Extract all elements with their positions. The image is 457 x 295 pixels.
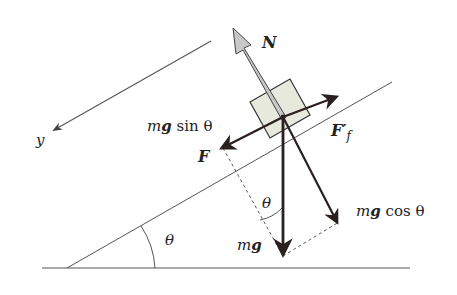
label-friction-force: F′f: [330, 121, 354, 143]
incline-angle-arc: [141, 226, 155, 268]
dashed-perp-lower: [283, 222, 339, 256]
label-applied-force: F: [197, 147, 211, 166]
label-incline-angle: θ: [165, 231, 174, 249]
label-y-axis: y: [35, 131, 45, 149]
label-parallel-component: mg sin θ: [147, 117, 212, 135]
label-perpendicular-component: mg cos θ: [356, 202, 424, 220]
perpendicular-force-arrow: [283, 117, 337, 222]
force-origin-point: [281, 115, 286, 120]
incline-force-diagram: N mg sin θ F F′f mg cos θ mg θ θ y: [0, 0, 457, 295]
label-gravity: mg: [237, 236, 262, 254]
label-gravity-angle: θ: [262, 194, 271, 212]
incline-line: [67, 82, 392, 268]
label-normal-force: N: [261, 33, 278, 52]
